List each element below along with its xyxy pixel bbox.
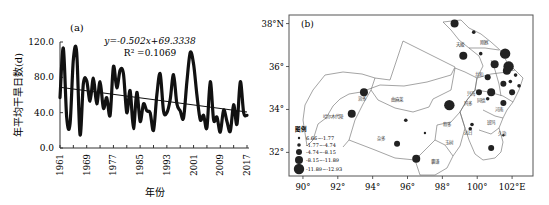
station-marker xyxy=(509,80,513,84)
region-label: 称多 xyxy=(443,121,452,128)
region-label: 兴海 xyxy=(467,90,476,97)
station-marker xyxy=(500,100,506,106)
region-label: 刚察 xyxy=(480,39,489,46)
longitude-label: 90° xyxy=(295,182,310,192)
station-marker xyxy=(404,118,408,122)
region-label: 达日 xyxy=(464,129,472,136)
region-label: 杂多 xyxy=(377,135,386,142)
y-tick-label: 40.0 xyxy=(34,108,54,118)
longitude-label: 96° xyxy=(400,182,415,192)
longitude-label: 94° xyxy=(365,182,380,192)
latitude-label: 36° xyxy=(269,62,284,72)
x-tick-label: 1961 xyxy=(55,154,65,176)
x-tick-label: 2017 xyxy=(242,154,252,176)
legend-marker xyxy=(297,143,301,147)
station-marker xyxy=(470,123,474,127)
station-marker xyxy=(487,88,495,96)
latitude-label: 34° xyxy=(269,104,284,114)
region-label: 同德 xyxy=(477,97,486,104)
legend-marker xyxy=(298,137,300,139)
region-label: 久治 xyxy=(498,130,507,137)
station-marker xyxy=(459,52,467,60)
station-marker xyxy=(488,145,494,151)
region-label: 囊谦 xyxy=(431,158,440,165)
station-marker xyxy=(444,100,454,110)
region-label: 河南 xyxy=(495,106,504,112)
panel-label: (b) xyxy=(301,19,314,29)
longitude-label: 102°E xyxy=(499,182,526,192)
station-marker xyxy=(479,52,483,56)
station-marker xyxy=(451,20,459,28)
x-tick-label: 1977 xyxy=(108,154,118,176)
station-marker xyxy=(486,97,490,101)
region-label: 玛多 xyxy=(464,100,473,107)
station-marker xyxy=(424,132,426,134)
drought-days-line-chart: 0.040.080.0120.0196119691977198519932001… xyxy=(0,0,260,205)
station-marker xyxy=(500,81,506,87)
station-marker xyxy=(472,30,476,34)
y-axis-label: 年平均干旱日数(d) xyxy=(12,53,24,137)
line-chart-canvas: 0.040.080.0120.0196119691977198519932001… xyxy=(0,0,260,205)
region-label: 玉树 xyxy=(445,139,454,146)
panel-label: (a) xyxy=(70,22,84,33)
legend-entry-label: -1.77~-4.74 xyxy=(306,142,336,148)
legend-entry-label: -8.15~-11.89 xyxy=(306,157,339,163)
y-tick-label: 120.0 xyxy=(28,37,54,47)
station-marker xyxy=(503,67,511,75)
x-tick-label: 1993 xyxy=(162,154,172,176)
region-label: 班玛 xyxy=(487,119,496,126)
y-tick-label: 80.0 xyxy=(34,72,54,82)
x-tick-label: 1969 xyxy=(82,154,92,176)
latitude-label: 32° xyxy=(269,147,284,157)
legend-entry-label: -11.89~-12.93 xyxy=(306,166,342,172)
y-tick-label: 0.0 xyxy=(40,143,55,153)
region-label: 曲麻莱 xyxy=(391,96,404,103)
longitude-label: 100° xyxy=(467,182,487,192)
legend-entry-label: 6.66~-1.77 xyxy=(306,135,334,141)
region-label: 治多 xyxy=(358,95,367,102)
latitude-label: 38°N xyxy=(261,19,284,29)
station-marker xyxy=(500,48,510,58)
map-canvas: 治多 曲麻莱 哈尔木代陵 杂多 囊谦 玉树 称多 玛多 久治 班玛 达日 同德 … xyxy=(255,0,549,205)
station-marker xyxy=(514,73,518,77)
station-marker xyxy=(491,60,499,68)
legend-title: 图例 xyxy=(295,125,307,133)
station-marker xyxy=(517,84,521,88)
station-marker xyxy=(476,89,482,95)
legend-marker xyxy=(295,156,303,164)
region-label: 共和 xyxy=(475,71,484,78)
legend-entry-label: -4.74~-8.15 xyxy=(306,149,336,155)
legend-marker xyxy=(294,164,304,174)
x-tick-label: 2009 xyxy=(215,154,225,176)
station-marker xyxy=(348,110,356,118)
longitude-label: 98° xyxy=(435,182,450,192)
r2-annotation: R² =0.1069 xyxy=(124,48,177,58)
longitude-label: 92° xyxy=(330,182,345,192)
station-marker xyxy=(485,74,491,80)
x-tick-label: 2001 xyxy=(189,154,199,176)
region-label: 哈尔木代陵 xyxy=(323,113,344,120)
x-axis-label: 年份 xyxy=(145,186,165,198)
station-trend-map: 治多 曲麻莱 哈尔木代陵 杂多 囊谦 玉树 称多 玛多 久治 班玛 达日 同德 … xyxy=(255,0,549,205)
region-label: 天峻 xyxy=(456,41,465,48)
station-marker xyxy=(394,141,400,147)
x-tick-label: 1985 xyxy=(135,154,145,176)
station-marker xyxy=(509,89,515,95)
equation-annotation: y=-0.502x+69.3338 xyxy=(103,36,196,46)
station-marker xyxy=(412,155,420,163)
legend-marker xyxy=(296,149,302,155)
